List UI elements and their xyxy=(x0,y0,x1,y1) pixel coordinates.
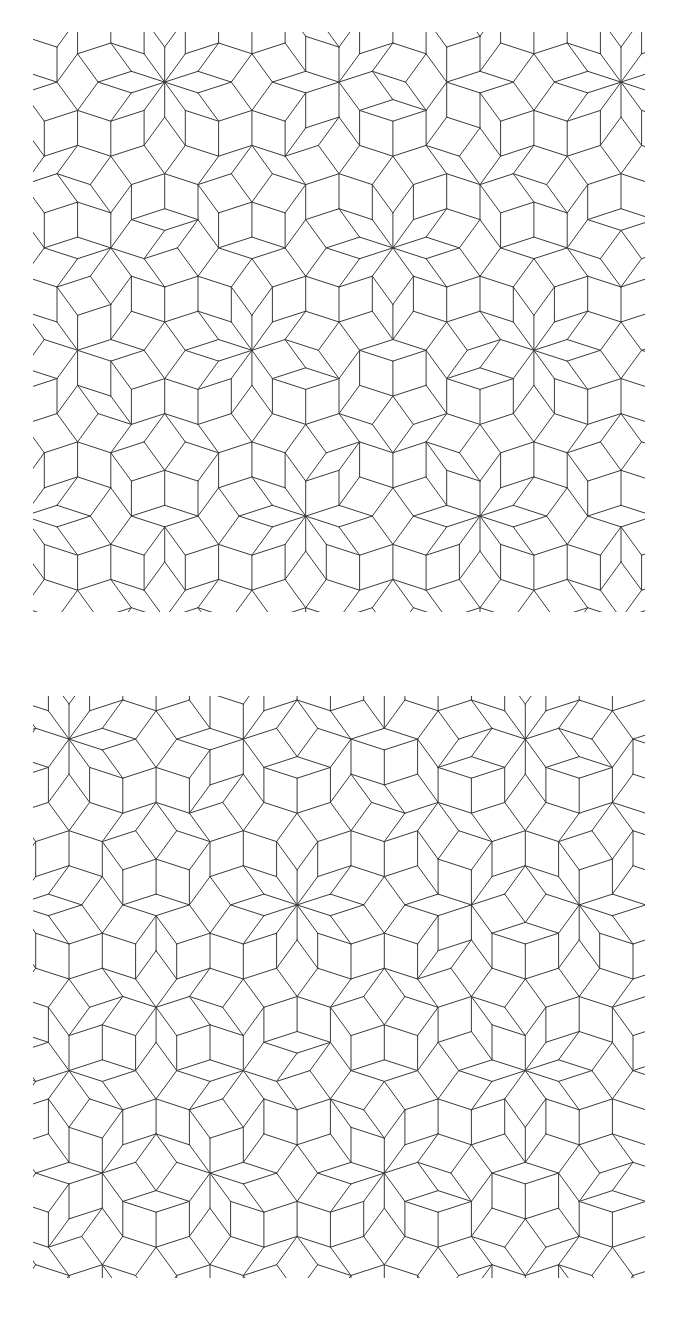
penrose-tiling-bottom xyxy=(33,696,645,1278)
rhombus-edges xyxy=(33,32,645,612)
tiling-svg xyxy=(33,696,645,1278)
penrose-tiling-top xyxy=(33,32,645,612)
tiling-svg xyxy=(33,32,645,612)
rhombus-edges xyxy=(33,696,645,1278)
